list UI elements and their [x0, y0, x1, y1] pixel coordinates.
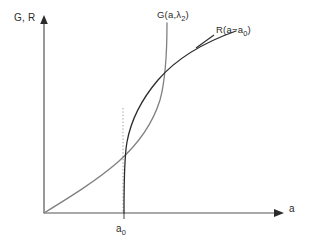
plot-area — [0, 0, 318, 244]
x-tick-label-a0-main: a — [116, 223, 122, 234]
curve-label-r: R(a−a0) — [216, 24, 251, 36]
x-axis-label: a — [289, 203, 295, 214]
curve-label-r-main: R(a−a — [216, 24, 243, 35]
curve-label-g-main: G(a,λ — [157, 9, 181, 20]
curve-r — [124, 31, 236, 213]
curve-label-g: G(a,λ2) — [157, 9, 189, 21]
curve-g — [44, 23, 167, 213]
x-tick-label-a0-subscript: 0 — [122, 228, 126, 237]
x-tick-label-a0: a0 — [116, 223, 126, 235]
curve-label-r-subscript: 0 — [243, 29, 247, 38]
y-axis-arrowhead — [40, 15, 48, 24]
curve-label-g-subscript: 2 — [181, 14, 185, 23]
curve-label-g-close: ) — [186, 9, 189, 20]
chart-figure: G, R a G(a,λ2) R(a−a0) a0 — [0, 0, 318, 244]
curve-label-r-close: ) — [248, 24, 251, 35]
x-axis-arrowhead — [274, 209, 284, 217]
y-axis-label: G, R — [14, 12, 35, 23]
